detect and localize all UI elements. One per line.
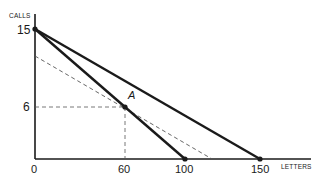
point-15 [32,26,37,31]
point-100 [182,156,187,161]
y-tick-6: 6 [23,100,30,114]
x-tick-60: 60 [118,163,130,175]
x-tick-100: 100 [175,163,193,175]
chart-plot-area [0,0,321,182]
budget-line-steep [35,29,185,159]
y-axis-title: CALLS [9,12,31,19]
budget-line-flat [35,29,260,159]
point-a [122,104,127,109]
point-150 [257,156,262,161]
x-tick-150: 150 [251,163,269,175]
point-a-label: A [128,89,135,101]
y-tick-15: 15 [17,23,30,37]
x-axis-title: LETTERS [281,163,312,170]
x-tick-0: 0 [31,163,37,175]
